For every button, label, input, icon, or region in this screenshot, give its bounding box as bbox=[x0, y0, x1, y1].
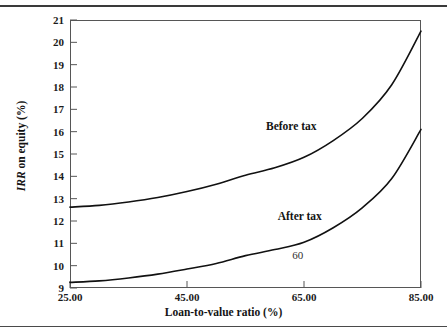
x-axis-tick-label: 25.00 bbox=[40, 292, 100, 303]
curve-point-label: 60 bbox=[292, 249, 303, 261]
axis-ticks-group bbox=[70, 20, 421, 288]
y-axis-title-italic: IRR bbox=[15, 171, 27, 191]
y-axis-tick-label: 18 bbox=[38, 82, 64, 93]
x-axis-tick-label: 65.00 bbox=[274, 292, 334, 303]
y-axis-tick-label: 15 bbox=[38, 149, 64, 160]
y-axis-tick-label: 20 bbox=[38, 37, 64, 48]
series-curves-group bbox=[70, 31, 421, 282]
curve-label-before-tax: Before tax bbox=[266, 120, 317, 132]
y-axis-tick-label: 14 bbox=[38, 171, 64, 182]
y-axis-title-rest: on equity (%) bbox=[15, 101, 27, 172]
series-line-before-tax bbox=[70, 31, 421, 207]
x-axis-title: Loan-to-value ratio (%) bbox=[0, 306, 447, 318]
bottom-horizontal-rule bbox=[0, 326, 447, 327]
top-horizontal-rule bbox=[0, 5, 447, 7]
y-axis-tick-label: 11 bbox=[38, 238, 64, 249]
y-axis-tick-label: 10 bbox=[38, 261, 64, 272]
series-line-after-tax bbox=[70, 129, 421, 282]
y-axis-title: IRR on equity (%) bbox=[15, 66, 27, 226]
figure-container: 9101112131415161718192021 25.0045.0065.0… bbox=[0, 0, 447, 335]
x-axis-tick-label: 45.00 bbox=[157, 292, 217, 303]
y-axis-tick-label: 12 bbox=[38, 216, 64, 227]
y-axis-tick-label: 19 bbox=[38, 60, 64, 71]
y-axis-tick-label: 17 bbox=[38, 104, 64, 115]
y-axis-tick-label: 21 bbox=[38, 15, 64, 26]
y-axis-tick-label: 16 bbox=[38, 127, 64, 138]
curve-label-after-tax: After tax bbox=[278, 210, 322, 222]
x-axis-tick-label: 85.00 bbox=[391, 292, 447, 303]
chart-plot bbox=[70, 20, 421, 288]
y-axis-tick-label: 13 bbox=[38, 194, 64, 205]
